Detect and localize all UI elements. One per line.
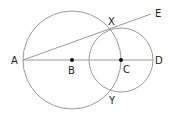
label-x: X — [108, 16, 115, 27]
label-y: Y — [108, 95, 116, 106]
point-c — [119, 58, 123, 62]
label-d: D — [155, 55, 163, 66]
label-c: C — [123, 64, 130, 75]
geometry-diagram: A B C D E X Y — [0, 0, 171, 114]
label-b: B — [68, 65, 75, 76]
point-b — [70, 58, 74, 62]
label-a: A — [11, 55, 18, 66]
label-e: E — [155, 8, 161, 19]
